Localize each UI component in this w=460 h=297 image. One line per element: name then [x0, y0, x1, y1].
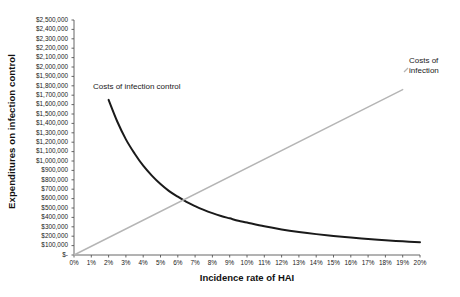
- x-axis-tick-label: 3%: [121, 259, 130, 267]
- x-axis-tick-label: 11%: [258, 259, 270, 267]
- x-axis-tick-label: 9%: [225, 259, 234, 267]
- x-axis-tick-label: 14%: [310, 259, 323, 267]
- series-line-costs-of-infection-control: [109, 100, 420, 242]
- x-axis-tick-label: 1%: [87, 259, 96, 267]
- x-axis-tick-labels: 0%1%2%3%4%5%6%7%8%9%10%11%12%13%14%15%16…: [0, 259, 460, 271]
- x-axis-tick-label: 10%: [241, 259, 254, 267]
- x-axis-tick-label: 18%: [379, 259, 392, 267]
- x-axis-tick-label: 7%: [190, 259, 199, 267]
- x-axis-tick-label: 13%: [292, 259, 305, 267]
- x-axis-tick-label: 6%: [173, 259, 182, 267]
- x-axis-tick-label: 20%: [414, 259, 427, 267]
- x-axis-tick-label: 5%: [156, 259, 165, 267]
- annotation-costs-of-infection-control: Costs of infection control: [93, 82, 181, 92]
- x-axis-tick-label: 16%: [344, 259, 357, 267]
- x-axis-tick-label: 4%: [139, 259, 148, 267]
- x-axis-tick-label: 12%: [275, 259, 288, 267]
- chart-container: Expenditures on infection control $2,500…: [0, 0, 460, 297]
- x-axis-tick-label: 8%: [208, 259, 217, 267]
- series-line-costs-of-infection: [74, 90, 403, 255]
- x-axis-tick-label: 15%: [327, 259, 340, 267]
- x-axis-tick-label: 19%: [396, 259, 409, 267]
- x-axis-tick-label: 0%: [69, 259, 78, 267]
- data-series: [74, 68, 420, 255]
- x-axis-tick-label: 17%: [362, 259, 375, 267]
- annotation-leader-infection: [404, 68, 408, 72]
- x-axis-title: Incidence rate of HAI: [74, 272, 420, 283]
- annotation-costs-of-infection: Costs of infection: [409, 56, 439, 75]
- plot-area: [0, 0, 460, 297]
- x-axis-tick-label: 2%: [104, 259, 113, 267]
